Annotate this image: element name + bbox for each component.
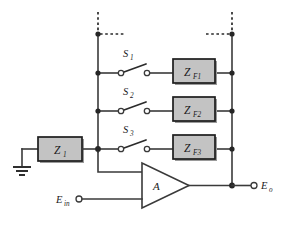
schematic-canvas: Z 1 Z F1 Z F2 Z F3 S 1 S 2 S 3 A E in E … <box>0 0 282 226</box>
left-rail-dashed-continuation <box>98 12 126 34</box>
switch-s3[interactable] <box>118 140 149 152</box>
junction-branch3-right <box>229 146 234 151</box>
junction-right-rail-top <box>229 31 234 36</box>
junction-branch2-right <box>229 108 234 113</box>
junction-branch1-right <box>229 70 234 75</box>
switch-s2[interactable] <box>118 102 149 114</box>
impedance-block-zf1 <box>173 59 217 85</box>
switch-s3-pole-left <box>118 146 123 151</box>
impedance-block-z1 <box>38 137 84 163</box>
summing-node-junction <box>95 146 101 152</box>
zf3-label-subscript: F3 <box>192 149 201 157</box>
switch-s1-blade <box>124 64 146 72</box>
zf1-label: Z <box>184 66 191 78</box>
switch-s1-label: S <box>123 48 129 59</box>
input-terminal-node[interactable] <box>76 196 82 202</box>
switch-s1[interactable] <box>118 64 149 76</box>
feedback-branch-2 <box>95 97 234 123</box>
switch-s3-pole-right <box>144 146 149 151</box>
input-terminal-label-subscript: in <box>64 200 70 208</box>
output-terminal-label-subscript: o <box>269 186 273 194</box>
switch-s3-blade <box>124 140 146 148</box>
switch-s2-pole-right <box>144 108 149 113</box>
summing-node-to-amp-input-wire <box>98 152 142 172</box>
z1-label-subscript: 1 <box>63 151 67 159</box>
z1-label: Z <box>54 144 61 156</box>
ground-symbol <box>13 149 38 175</box>
zf3-label: Z <box>184 142 191 154</box>
junction-branch1-left <box>95 70 100 75</box>
switch-s3-label-subscript: 3 <box>129 130 134 138</box>
switch-s2-pole-left <box>118 108 123 113</box>
switch-s2-label: S <box>123 86 129 97</box>
junction-branch2-left <box>95 108 100 113</box>
impedance-block-zf2 <box>173 97 217 123</box>
output-terminal-label: E <box>260 180 268 191</box>
switch-s1-pole-left <box>118 70 123 75</box>
right-rail-dashed-continuation <box>206 12 232 34</box>
zf2-label-subscript: F2 <box>192 111 201 119</box>
switch-s1-label-subscript: 1 <box>130 54 134 62</box>
switch-s2-blade <box>124 102 146 110</box>
zf1-label-subscript: F1 <box>192 73 201 81</box>
switch-s3-label: S <box>123 124 129 135</box>
amplifier-label: A <box>152 180 160 192</box>
amplifier-block <box>142 163 189 208</box>
impedance-block-zf3 <box>173 135 217 161</box>
circuit-diagram: Z 1 Z F1 Z F2 Z F3 S 1 S 2 S 3 A E in E … <box>0 0 282 226</box>
amplifier-triangle <box>142 163 189 208</box>
zf2-label: Z <box>184 104 191 116</box>
feedback-branch-3 <box>98 135 235 161</box>
output-terminal-node[interactable] <box>251 183 257 189</box>
feedback-branch-1 <box>95 59 234 85</box>
junction-left-rail-top <box>95 31 100 36</box>
switch-s1-pole-right <box>144 70 149 75</box>
switch-s2-label-subscript: 2 <box>130 92 134 100</box>
input-terminal-label: E <box>55 194 63 205</box>
